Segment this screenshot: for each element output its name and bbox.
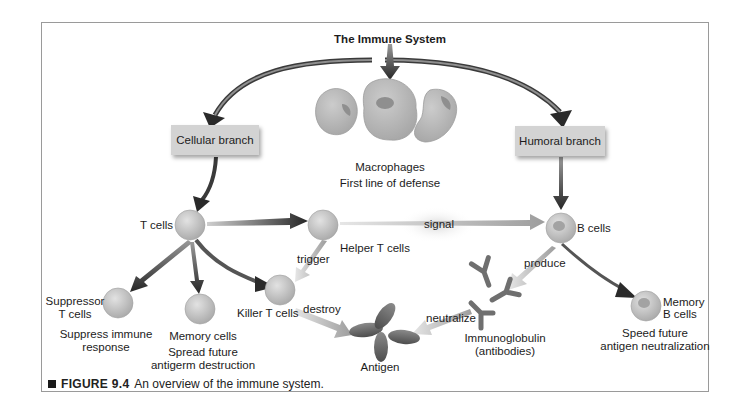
- killer-t-cell: [265, 275, 295, 305]
- b-cells-cell: [546, 213, 576, 243]
- suppressor-role-1: Suppress immune: [56, 328, 156, 341]
- immunoglobulin-label-1: Immunoglobulin: [455, 332, 555, 345]
- memory-b-cell: [631, 291, 661, 321]
- macrophages-label: Macrophages: [330, 161, 450, 174]
- immunoglobulin-label-2: (antibodies): [455, 345, 555, 358]
- macrophages-illustration: [316, 79, 457, 142]
- suppressor-t-label-1: Suppressor: [44, 295, 106, 308]
- memory-role-2: antigerm destruction: [140, 359, 266, 372]
- figure-caption: FIGURE 9.4An overview of the immune syst…: [48, 377, 324, 391]
- arrow-humoral-to-bcells: [553, 157, 569, 210]
- antibodies-illustration: [471, 258, 519, 328]
- antigen-illustration: [348, 300, 420, 362]
- helper-t-label: Helper T cells: [340, 242, 410, 255]
- b-cells-label: B cells: [577, 222, 611, 235]
- antigen-label: Antigen: [355, 361, 405, 374]
- suppressor-t-cell: [103, 288, 133, 318]
- macrophages-role: First line of defense: [330, 177, 450, 190]
- produce-label: produce: [524, 257, 566, 270]
- caption-square-icon: [48, 380, 56, 388]
- killer-t-label: Killer T cells: [237, 307, 299, 320]
- memory-b-label-2: B cells: [663, 308, 697, 321]
- diagram-title: The Immune System: [318, 33, 462, 46]
- t-cells-cell: [175, 210, 205, 240]
- humoral-branch-box: Humoral branch: [515, 126, 605, 156]
- t-cells-label: T cells: [140, 219, 173, 232]
- figure-label: FIGURE 9.4: [61, 377, 129, 391]
- trigger-label: trigger: [297, 253, 330, 266]
- memory-t-cell: [185, 294, 215, 324]
- cellular-branch-box: Cellular branch: [171, 125, 259, 155]
- signal-label: signal: [424, 218, 454, 231]
- arrow-cellular-to-tcells: [193, 157, 216, 212]
- arrow-bcells-to-memoryb: [562, 244, 637, 298]
- neutralize-label: neutralize: [426, 312, 476, 325]
- suppressor-t-label-2: T cells: [44, 308, 106, 321]
- destroy-label: destroy: [303, 303, 341, 316]
- helper-t-cell: [308, 210, 338, 240]
- memory-b-role-1: Speed future: [595, 327, 715, 340]
- arrow-tcells-to-helper: [207, 213, 308, 229]
- memory-role-1: Spread future: [140, 346, 266, 359]
- caption-text: An overview of the immune system.: [134, 377, 323, 391]
- memory-b-role-2: antigen neutralization: [595, 340, 715, 353]
- arrow-tcells-to-suppressor: [130, 240, 192, 292]
- arrow-tcells-to-killer: [196, 240, 275, 292]
- memory-cells-label: Memory cells: [150, 330, 256, 343]
